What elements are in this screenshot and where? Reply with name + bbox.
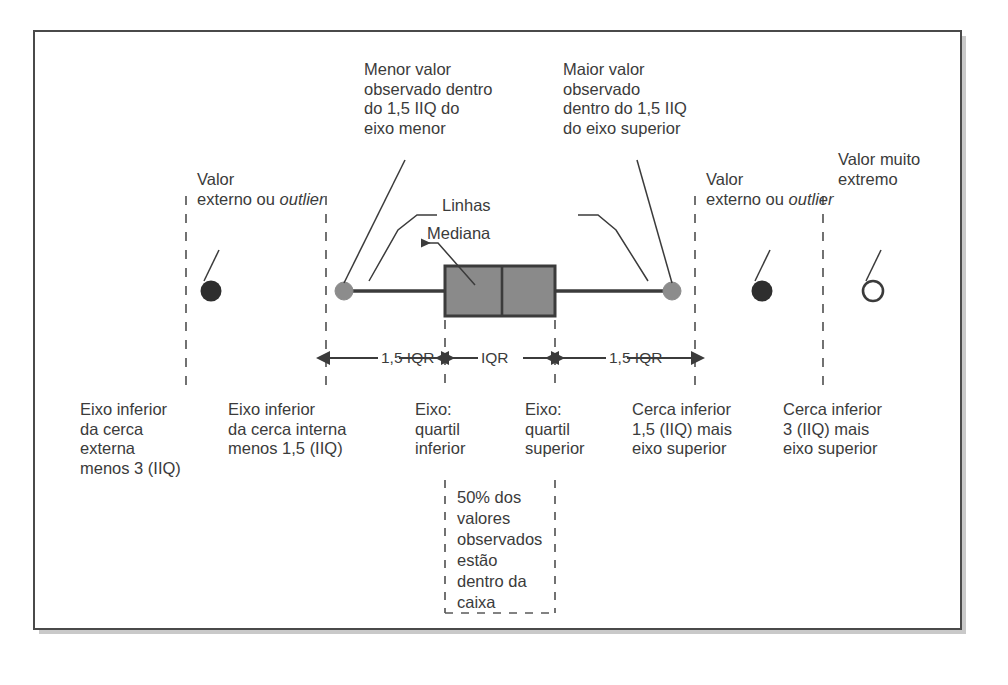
box-note-text: 50% dos valores observados estão dentro …: [457, 487, 562, 613]
lower-whisker-cap-dot: [335, 282, 353, 300]
extreme-value-circle: [863, 281, 883, 301]
outlier-dot-right: [752, 281, 773, 302]
callout-median: Mediana: [427, 224, 490, 244]
callout-outlier-right-emph: outlier: [789, 190, 834, 208]
bottom-label-lower-quartile: Eixo: quartil inferior: [415, 400, 505, 459]
leader-outlier-right: [755, 250, 770, 281]
figure-canvas: Menor valor observado dentro do 1,5 IIQ …: [0, 0, 1008, 685]
leader-extreme: [866, 250, 881, 281]
upper-whisker-cap-dot: [663, 282, 681, 300]
interquartile-box: [445, 266, 555, 316]
callout-outlier-right-text: Valor externo ou: [706, 170, 789, 208]
dim-label-iqr: IQR: [481, 349, 509, 367]
bottom-label-outer-upper-fence: Cerca inferior 3 (IIQ) mais eixo superio…: [783, 400, 928, 459]
callout-lower-whisker: Menor valor observado dentro do 1,5 IIQ …: [364, 60, 554, 138]
outlier-dot-left: [201, 281, 222, 302]
leader-upper-whisker-callout: [637, 160, 672, 283]
callout-outlier-left-emph: outlier: [280, 190, 325, 208]
callout-outlier-left: Valor externo ou outlier: [197, 170, 357, 209]
callout-whisker-lines: Linhas: [442, 196, 491, 216]
bottom-label-upper-quartile: Eixo: quartil superior: [525, 400, 615, 459]
dim-label-left-fence: 1,5 IQR: [381, 349, 434, 367]
callout-upper-whisker: Maior valor observado dentro do 1,5 IIQ …: [563, 60, 748, 138]
bottom-label-outer-lower-fence: Eixo inferior da cerca externa menos 3 (…: [80, 400, 215, 478]
callout-outlier-left-text: Valor externo ou: [197, 170, 280, 208]
dim-label-right-fence: 1,5 IQR: [609, 349, 662, 367]
boxplot-glyph: [335, 266, 681, 316]
leader-outlier-left: [204, 250, 219, 281]
bottom-label-inner-upper-fence: Cerca inferior 1,5 (IIQ) mais eixo super…: [632, 400, 777, 459]
bottom-label-inner-lower-fence: Eixo inferior da cerca interna menos 1,5…: [228, 400, 383, 459]
callout-extreme-value: Valor muito extremo: [838, 150, 988, 189]
leader-linhas-right: [578, 215, 648, 281]
